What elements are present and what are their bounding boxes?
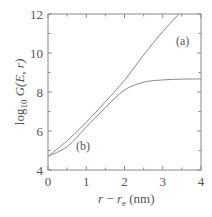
chart: 01234 4681012 (a) (b) r − re (nm) log10 … [0,0,212,217]
curve-label-a: (a) [176,34,189,48]
x-axis-title: r − re (nm) [98,191,155,208]
y-tick-label: 6 [37,124,44,139]
y-tick-label: 12 [30,7,43,22]
x-tick-label: 2 [121,174,128,189]
y-tick-labels: 4681012 [30,7,44,178]
y-axis-title: log10 G(E, r) [12,59,29,125]
y-tick-label: 4 [37,163,44,178]
x-tick-label: 0 [45,174,52,189]
x-tick-labels: 01234 [45,174,205,189]
curve-label-b: (b) [76,139,90,153]
x-tick-label: 3 [160,174,167,189]
x-tick-label: 4 [198,174,205,189]
curve-b [48,79,201,156]
y-tick-label: 10 [30,46,43,61]
curve-a [48,14,179,156]
x-tick-label: 1 [83,174,90,189]
y-tick-label: 8 [37,85,44,100]
